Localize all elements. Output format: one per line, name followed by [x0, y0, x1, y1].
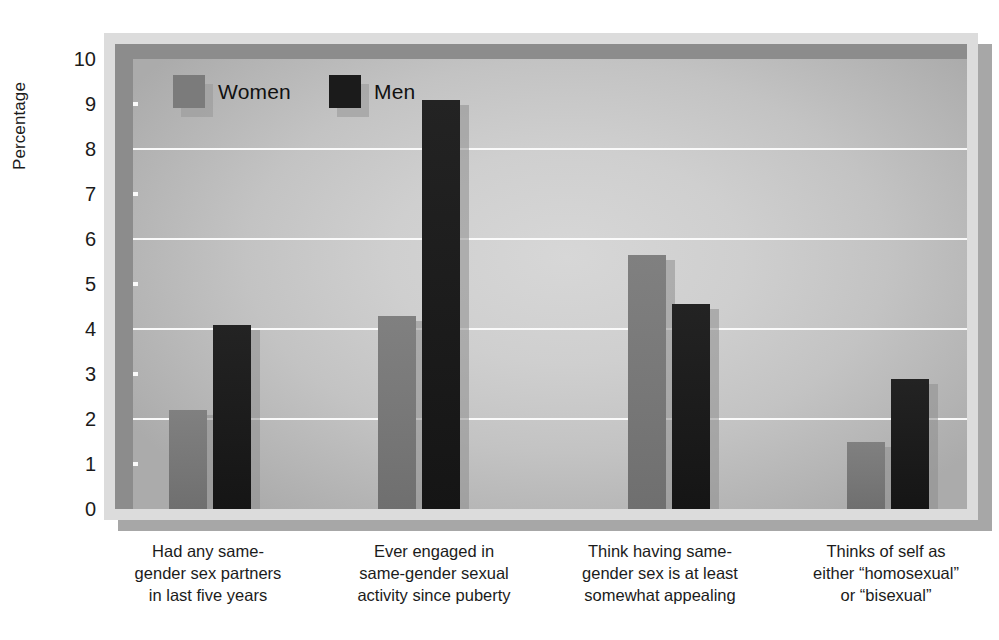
category-label-line: either “homosexual” [777, 563, 995, 585]
category-label-line: same-gender sexual [325, 563, 543, 585]
plot-area: WomenMen [133, 59, 967, 509]
category-label-line: Think having same- [551, 541, 769, 563]
legend-swatch-women-icon [173, 75, 205, 108]
bar-face [169, 410, 207, 509]
category-label-line: Ever engaged in [325, 541, 543, 563]
category-label-line: or “bisexual” [777, 585, 995, 607]
y-axis-tick-label: 6 [54, 229, 96, 249]
bar [213, 325, 251, 510]
bar-face [672, 304, 710, 509]
y-axis-tick-label: 1 [54, 454, 96, 474]
bar [672, 304, 710, 509]
legend-item-women: Women [173, 75, 291, 108]
bar-face [847, 442, 885, 510]
legend-swatch-men-icon [329, 75, 361, 108]
bar [628, 255, 666, 509]
category-label-line: gender sex is at least [551, 563, 769, 585]
legend-swatch-face [329, 75, 361, 108]
bar-face [213, 325, 251, 510]
bar [891, 379, 929, 510]
bar-face [891, 379, 929, 510]
y-axis-tick-labels: 012345678910 [50, 59, 96, 509]
y-axis-title: Percentage [10, 0, 30, 170]
chart-legend: WomenMen [173, 75, 453, 108]
category-label: Thinks of self aseither “homosexual”or “… [777, 541, 995, 607]
legend-item-men: Men [329, 75, 415, 108]
bar-group [133, 59, 342, 509]
y-axis-tick-label: 8 [54, 139, 96, 159]
bar-men [213, 325, 251, 510]
category-label: Had any same-gender sex partnersin last … [99, 541, 317, 607]
y-axis-tick-label: 3 [54, 364, 96, 384]
bar-men [672, 304, 710, 509]
y-axis-tick-label: 2 [54, 409, 96, 429]
y-axis-tick-label: 0 [54, 499, 96, 519]
y-axis-tick-label: 9 [54, 94, 96, 114]
legend-label: Men [374, 80, 415, 104]
bar-group [759, 59, 968, 509]
bar-group [342, 59, 551, 509]
legend-label: Women [218, 80, 291, 104]
category-label: Ever engaged insame-gender sexualactivit… [325, 541, 543, 607]
y-axis-tick-label: 4 [54, 319, 96, 339]
category-label-line: gender sex partners [99, 563, 317, 585]
bar-group [550, 59, 759, 509]
bar-women [847, 442, 885, 510]
bar [422, 100, 460, 510]
y-axis-tick-label: 5 [54, 274, 96, 294]
bar-men [422, 100, 460, 510]
category-label-line: Had any same- [99, 541, 317, 563]
bar [378, 316, 416, 510]
bar [169, 410, 207, 509]
bar [847, 442, 885, 510]
x-axis-category-labels: Had any same-gender sex partnersin last … [104, 541, 990, 637]
category-label-line: activity since puberty [325, 585, 543, 607]
bar-women [378, 316, 416, 510]
category-label-line: in last five years [99, 585, 317, 607]
category-label-line: Thinks of self as [777, 541, 995, 563]
y-axis-tick-label: 7 [54, 184, 96, 204]
bar-face [628, 255, 666, 509]
bar-women [628, 255, 666, 509]
category-label-line: somewhat appealing [551, 585, 769, 607]
bar-face [422, 100, 460, 510]
category-label: Think having same-gender sex is at least… [551, 541, 769, 607]
bar-face [378, 316, 416, 510]
bar-chart-figure: Percentage 012345678910 WomenMen Had any… [0, 0, 999, 640]
legend-swatch-face [173, 75, 205, 108]
bar-men [891, 379, 929, 510]
bar-women [169, 410, 207, 509]
y-axis-tick-label: 10 [54, 49, 96, 69]
